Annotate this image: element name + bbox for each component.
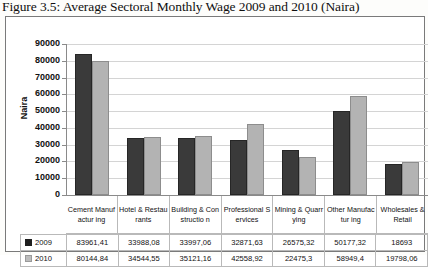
category-label: Wholesales & Retail [376,196,428,234]
bar-2010 [92,61,109,195]
y-axis-tick-label: 20000 [14,156,60,165]
category-label: Mining & Quarrying [272,196,324,234]
y-axis-tick-label: 70000 [14,73,60,82]
table-cell: 50177,32 [324,234,376,251]
bar-2010 [350,96,367,195]
bar-2009 [127,138,144,195]
table-cell: 22475,3 [272,251,324,267]
bar-group [325,44,377,195]
bar-group [273,44,325,195]
bar-2009 [385,164,402,195]
y-axis-tick-label: 0 [14,190,60,199]
y-axis-tick-label: 40000 [14,123,60,132]
plot-area [66,44,428,195]
y-axis-tick-label: 10000 [14,173,60,182]
y-axis-tick-label: 90000 [14,39,60,48]
legend-swatch-icon [25,255,32,262]
bar-2010 [299,157,316,195]
bar-2009 [230,140,247,195]
table-cell: 32871,63 [221,234,273,251]
bar-2010 [247,124,264,195]
bar-2010 [144,137,161,195]
y-axis-tick-label: 60000 [14,89,60,98]
table-row: 201080144,8434544,5535121,1642558,922247… [20,251,428,267]
bar-group [66,44,118,195]
legend-label: 2010 [35,254,52,263]
bar-2009 [282,150,299,195]
y-axis-tick-label: 30000 [14,140,60,149]
bar-2009 [178,138,195,195]
category-label: Other Manufactur ing [324,196,376,234]
legend-entry-2010: 2010 [20,251,66,267]
legend-entry-2009: 2009 [20,234,66,251]
figure-caption: Figure 3.5: Average Sectoral Monthly Wag… [2,0,426,15]
bar-2009 [75,54,92,195]
category-label: Building & Constructio n [169,196,221,234]
bar-group [221,44,273,195]
y-axis-tick-label: 50000 [14,106,60,115]
data-table: 200983961,4133988,0833997,0632871,632657… [20,234,428,267]
table-cell: 19798,06 [375,251,428,267]
table-cell: 33988,08 [118,234,170,251]
bar-2009 [333,111,350,195]
table-cell: 34544,55 [118,251,170,267]
category-label: Cement Manufactur ing [66,196,117,234]
table-cell: 80144,84 [66,251,118,267]
table-cell: 83961,41 [66,234,118,251]
table-cell: 26575,32 [272,234,324,251]
bar-group [169,44,221,195]
category-label: Hotel & Restaurants [117,196,169,234]
bar-2010 [195,136,212,195]
category-label: Professional Services [221,196,273,234]
table-cell: 33997,06 [169,234,221,251]
table-cell: 18693 [375,234,428,251]
bar-group [376,44,428,195]
y-axis-tick-label: 80000 [14,56,60,65]
category-label-strip: Cement Manufactur ingHotel & Restaurants… [66,196,428,234]
bar-group [118,44,170,195]
bar-2010 [402,162,419,195]
table-cell: 58949,4 [324,251,376,267]
table-cell: 35121,16 [169,251,221,267]
table-cell: 42558,92 [221,251,273,267]
chart-frame: Naira 9000080000700006000050000400003000… [5,16,425,252]
table-row: 200983961,4133988,0833997,0632871,632657… [20,234,428,251]
legend-swatch-icon [25,239,32,246]
legend-label: 2009 [35,238,52,247]
